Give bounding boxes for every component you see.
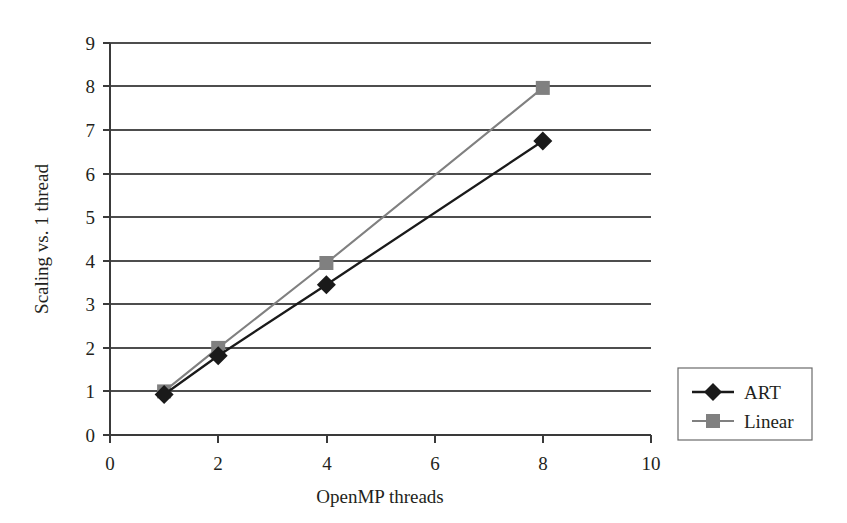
square-marker [319, 256, 333, 270]
x-tick-label: 10 [642, 453, 661, 474]
legend-label-linear: Linear [744, 411, 794, 432]
y-tick-labels: 9 8 7 6 5 4 3 2 1 0 [86, 33, 96, 446]
y-tick-label: 2 [86, 338, 96, 359]
x-axis-ticks [110, 435, 651, 443]
square-marker [536, 81, 550, 95]
x-tick-label: 6 [430, 453, 440, 474]
y-tick-label: 4 [86, 251, 96, 272]
y-tick-label: 5 [86, 207, 96, 228]
y-tick-label: 1 [86, 381, 96, 402]
y-tick-label: 8 [86, 76, 96, 97]
legend: ART Linear [678, 368, 812, 440]
x-tick-label: 2 [213, 453, 223, 474]
series-art [155, 132, 553, 404]
x-axis-title: OpenMP threads [316, 486, 444, 507]
diamond-marker [317, 275, 336, 294]
y-tick-label: 7 [86, 120, 96, 141]
y-tick-label: 6 [86, 164, 96, 185]
y-axis-ticks [103, 43, 110, 435]
scaling-line-chart: 9 8 7 6 5 4 3 2 1 0 0 2 4 6 8 10 OpenMP … [0, 0, 847, 523]
diamond-marker [533, 132, 552, 151]
x-tick-label: 0 [105, 453, 115, 474]
y-tick-label: 3 [86, 294, 96, 315]
chart-figure: 9 8 7 6 5 4 3 2 1 0 0 2 4 6 8 10 OpenMP … [0, 0, 847, 523]
x-tick-labels: 0 2 4 6 8 10 [105, 453, 660, 474]
gridlines [110, 43, 651, 391]
y-tick-label: 9 [86, 33, 96, 54]
square-marker [706, 414, 720, 428]
x-tick-label: 4 [322, 453, 332, 474]
y-axis-title: Scaling vs. 1 thread [31, 164, 52, 314]
y-tick-label: 0 [86, 425, 96, 446]
x-tick-label: 8 [538, 453, 548, 474]
legend-label-art: ART [744, 382, 781, 403]
